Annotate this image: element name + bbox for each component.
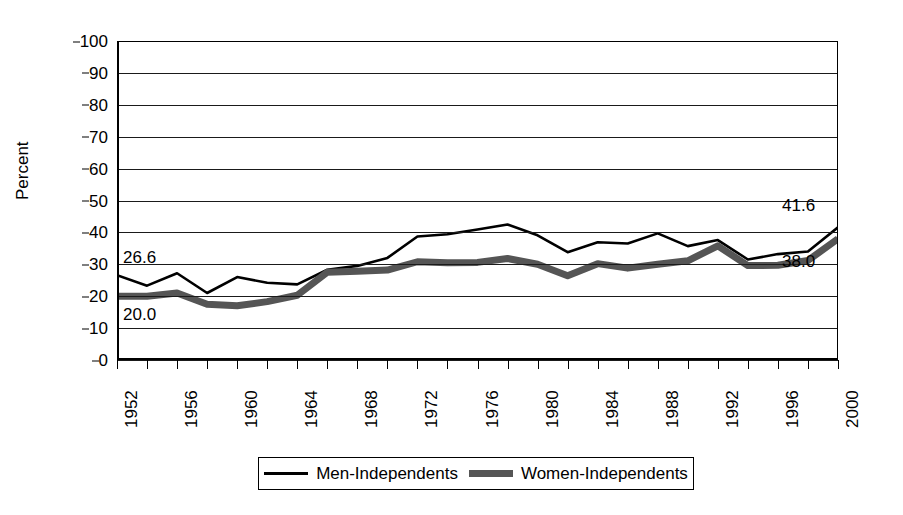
x-axis-tick-mark <box>808 360 809 369</box>
x-axis-tick-mark <box>327 360 328 369</box>
y-axis-tick-label: 30 <box>89 256 108 273</box>
x-axis-tick-mark <box>628 360 629 369</box>
y-axis-tick-mark <box>82 232 89 233</box>
x-axis-tick-label: 1952 <box>123 390 140 428</box>
y-axis-tick-label: 0 <box>99 352 108 369</box>
x-axis-tick-marks <box>117 360 838 370</box>
x-axis-tick-label: 1956 <box>183 390 200 428</box>
y-axis-tick-mark <box>92 360 99 361</box>
x-axis-tick-mark <box>838 360 839 369</box>
legend-label-women: Women-Independents <box>521 465 688 482</box>
x-axis-tick-mark <box>387 360 388 369</box>
x-axis-tick-mark <box>207 360 208 369</box>
plot-frame <box>117 41 838 360</box>
x-axis-tick-label: 1984 <box>604 390 621 428</box>
x-axis-tick-mark <box>658 360 659 369</box>
plot-area <box>117 41 838 360</box>
legend-swatch-men-icon <box>264 472 308 475</box>
y-axis-tick-mark <box>82 328 89 329</box>
y-axis-tick-mark <box>82 169 89 170</box>
y-axis-tick-mark <box>82 137 89 138</box>
y-axis-tick-mark <box>82 105 89 106</box>
x-axis-tick-label: 1980 <box>544 390 561 428</box>
x-axis-tick-label: 1976 <box>484 390 501 428</box>
x-axis-tick-label: 1968 <box>363 390 380 428</box>
x-axis-tick-mark <box>568 360 569 369</box>
x-axis-tick-label: 1992 <box>724 390 741 428</box>
value-annotation: 20.0 <box>123 306 156 323</box>
x-axis-tick-mark <box>478 360 479 369</box>
y-axis-tick-label: 40 <box>89 224 108 241</box>
x-axis-tick-mark <box>598 360 599 369</box>
legend-entry-men: Men-Independents <box>264 465 458 482</box>
x-axis-tick-mark <box>417 360 418 369</box>
x-axis-tick-label: 2000 <box>844 390 861 428</box>
x-axis-tick-mark <box>778 360 779 369</box>
x-axis-tick-mark <box>748 360 749 369</box>
x-axis-tick-mark <box>147 360 148 369</box>
x-axis-tick-mark <box>177 360 178 369</box>
y-axis-tick-label: 50 <box>89 192 108 209</box>
x-axis-tick-mark <box>447 360 448 369</box>
x-axis-tick-mark <box>688 360 689 369</box>
value-annotation: 38.0 <box>782 253 815 270</box>
y-axis-tick-label: 90 <box>89 64 108 81</box>
x-axis-tick-mark <box>508 360 509 369</box>
y-axis-tick-label: 60 <box>89 160 108 177</box>
y-axis-tick-mark <box>73 41 80 42</box>
legend-entry-women: Women-Independents <box>469 465 688 482</box>
x-axis-tick-mark <box>237 360 238 369</box>
x-axis-tick-mark <box>718 360 719 369</box>
value-annotation: 26.6 <box>123 249 156 266</box>
x-axis-tick-mark <box>267 360 268 369</box>
x-axis-tick-label: 1972 <box>423 390 440 428</box>
chart-root: Percent 1009080706050403020100 195219561… <box>0 0 903 515</box>
legend-label-men: Men-Independents <box>316 465 458 482</box>
y-axis-title: Percent <box>13 141 33 200</box>
y-axis-tick-label: 70 <box>89 128 108 145</box>
y-axis-tick-label: 10 <box>89 320 108 337</box>
value-annotation: 41.6 <box>782 197 815 214</box>
x-axis-tick-mark <box>357 360 358 369</box>
x-axis-tick-mark <box>297 360 298 369</box>
y-axis-tick-mark <box>82 264 89 265</box>
chart-legend: Men-Independents Women-Independents <box>258 457 694 490</box>
y-axis-tick-mark <box>82 296 89 297</box>
y-axis-tick-label: 80 <box>89 96 108 113</box>
y-axis-tick-mark <box>82 73 89 74</box>
legend-swatch-women-icon <box>469 470 513 477</box>
x-axis-tick-mark <box>538 360 539 369</box>
y-axis-tick-labels: 1009080706050403020100 <box>58 41 108 360</box>
y-axis-tick-label: 20 <box>89 288 108 305</box>
y-axis-tick-label: 100 <box>80 33 108 50</box>
x-axis-tick-labels: 1952195619601964196819721976198019841988… <box>117 372 838 432</box>
x-axis-tick-label: 1988 <box>664 390 681 428</box>
x-axis-tick-label: 1996 <box>784 390 801 428</box>
y-axis-tick-mark <box>82 201 89 202</box>
x-axis-tick-label: 1960 <box>243 390 260 428</box>
x-axis-tick-mark <box>117 360 118 369</box>
x-axis-tick-label: 1964 <box>303 390 320 428</box>
